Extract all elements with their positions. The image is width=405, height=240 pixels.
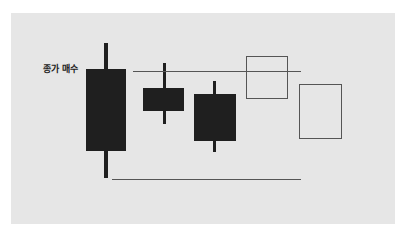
candle-1-body [86,69,126,151]
candle-2-body [143,88,184,111]
candle-4-body [246,56,288,99]
candle-3-body [194,94,236,141]
lower-reference-line [112,179,301,180]
candle-5-body [299,84,342,139]
annotation-label: 종가 매수 [43,62,78,75]
